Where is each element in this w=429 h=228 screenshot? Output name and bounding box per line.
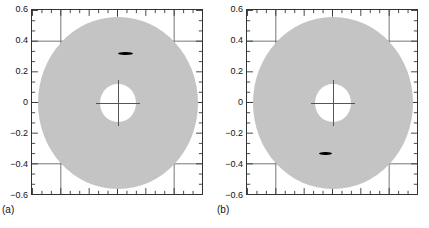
y-tick-label-b-4: 0.2 bbox=[230, 67, 243, 76]
y-tick-label-b-1: −0.4 bbox=[225, 160, 243, 169]
y-tick-label-b-5: 0.4 bbox=[230, 36, 243, 45]
figure-two-panel: −0.6−0.4−0.200.20.40.6 (a) −0.6−0.4−0.20… bbox=[0, 0, 429, 228]
y-tick-label-a-6: 0.6 bbox=[15, 5, 28, 14]
y-tick-label-b-6: 0.6 bbox=[230, 5, 243, 14]
y-tick-label-a-3: 0 bbox=[23, 98, 28, 107]
panel-a: −0.6−0.4−0.200.20.40.6 (a) bbox=[0, 0, 214, 228]
y-axis-labels-a: −0.6−0.4−0.200.20.40.6 bbox=[0, 0, 30, 228]
y-tick-label-a-0: −0.6 bbox=[10, 191, 28, 200]
panel-b: −0.6−0.4−0.200.20.40.6 (b) bbox=[215, 0, 429, 228]
crosshair-horizontal-a bbox=[96, 103, 140, 104]
y-tick-label-b-0: −0.6 bbox=[225, 191, 243, 200]
y-axis-labels-b: −0.6−0.4−0.200.20.40.6 bbox=[215, 0, 245, 228]
y-tick-label-a-2: −0.2 bbox=[10, 129, 28, 138]
data-marker-b bbox=[319, 152, 332, 155]
data-marker-a bbox=[118, 52, 133, 55]
y-tick-label-a-1: −0.4 bbox=[10, 160, 28, 169]
panel-caption-b: (b) bbox=[217, 205, 229, 215]
crosshair-horizontal-b bbox=[311, 103, 355, 104]
plot-area-b bbox=[246, 9, 418, 195]
plot-area-a bbox=[31, 9, 203, 195]
y-tick-label-b-3: 0 bbox=[238, 98, 243, 107]
y-tick-label-a-4: 0.2 bbox=[15, 67, 28, 76]
panel-caption-a: (a) bbox=[2, 205, 14, 215]
y-tick-label-a-5: 0.4 bbox=[15, 36, 28, 45]
y-tick-label-b-2: −0.2 bbox=[225, 129, 243, 138]
